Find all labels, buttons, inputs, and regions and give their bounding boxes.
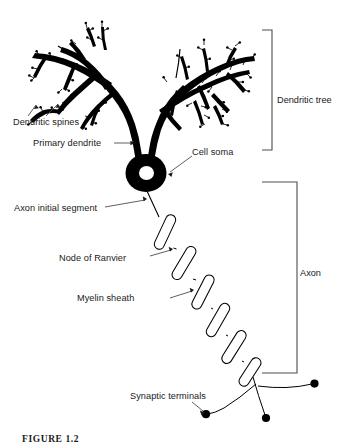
bracket-label-dendritic-tree: Dendritic tree bbox=[277, 96, 332, 105]
terminal-branch-down bbox=[253, 377, 265, 415]
synaptic-terminal-bouton bbox=[202, 410, 210, 418]
label-dendritic-spines: Dendritic spines bbox=[13, 118, 79, 127]
synaptic-terminal-bouton bbox=[262, 414, 270, 422]
node-of-ranvier bbox=[211, 308, 213, 309]
dendrite-right-thin-2 bbox=[176, 49, 180, 78]
synaptic-terminal-bouton bbox=[310, 380, 318, 388]
soma-nucleus bbox=[139, 166, 154, 180]
label-cell-soma: Cell soma bbox=[192, 148, 233, 157]
leader-synaptic-terminals bbox=[192, 402, 203, 411]
label-axon-initial-segment: Axon initial segment bbox=[14, 204, 97, 213]
node-of-ranvier bbox=[193, 279, 196, 280]
bracket-label-axon: Axon bbox=[300, 269, 321, 278]
synaptic-terminals-group bbox=[202, 377, 319, 422]
bracket-axon bbox=[262, 182, 297, 373]
leader-node-ranvier bbox=[150, 250, 171, 256]
dendrite-right-mid-down bbox=[193, 100, 204, 125]
myelin-segment bbox=[170, 245, 198, 282]
label-primary-dendrite: Primary dendrite bbox=[33, 139, 101, 148]
terminal-branch-left bbox=[208, 384, 256, 414]
label-myelin-sheath: Myelin sheath bbox=[77, 294, 134, 303]
node-of-ranvier bbox=[242, 361, 244, 362]
axon-group bbox=[147, 191, 263, 388]
leader-myelin-sheath bbox=[170, 291, 192, 298]
neuron-illustration bbox=[0, 0, 353, 445]
node-of-ranvier bbox=[174, 248, 177, 249]
figure-canvas: Dendritic spines Primary dendrite Cell s… bbox=[0, 0, 353, 445]
myelin-sheath-segments bbox=[153, 213, 263, 388]
bracket-dendritic-tree bbox=[262, 30, 272, 150]
label-synaptic-terminals: Synaptic terminals bbox=[130, 392, 206, 401]
figure-caption: FIGURE 1.2 bbox=[22, 434, 79, 444]
myelin-segment bbox=[237, 356, 263, 388]
axon-initial-segment-shape bbox=[147, 191, 159, 217]
terminal-branch-right bbox=[258, 384, 312, 388]
node-of-ranvier bbox=[226, 335, 228, 336]
myelin-segment bbox=[204, 301, 231, 338]
leader-cell-soma bbox=[170, 156, 192, 172]
label-node-of-ranvier: Node of Ranvier bbox=[59, 254, 126, 263]
myelin-segment bbox=[153, 213, 178, 251]
dendritic-spines-group bbox=[27, 21, 256, 130]
leader-axon-initial bbox=[105, 200, 145, 207]
cell-soma-group bbox=[126, 154, 167, 192]
dendrite-right-sub-2 bbox=[211, 93, 230, 113]
brackets-group bbox=[262, 30, 297, 373]
myelin-segment bbox=[220, 329, 248, 366]
leader-dendritic-spines-a bbox=[28, 105, 36, 116]
